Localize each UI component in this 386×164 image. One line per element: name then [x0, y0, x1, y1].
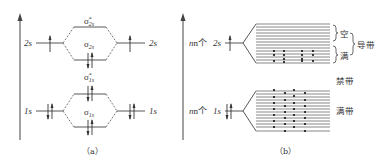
- brace-icon: [333, 46, 338, 63]
- label-sigma-2s-star: σ*2s: [84, 16, 95, 27]
- electron-pair-icon: [129, 103, 136, 120]
- caption-a: （a）: [82, 147, 103, 156]
- label-1s: 1s: [213, 106, 222, 116]
- panel-b: nn个 2s: [181, 13, 376, 156]
- label-full: 满: [340, 51, 349, 61]
- label-left-1s: 1s: [24, 106, 33, 116]
- label-left-2s: 2s: [24, 38, 33, 48]
- brace-icon: [350, 33, 355, 55]
- electron-pair-icon: [47, 103, 54, 120]
- label-forbidden-band: 禁带: [336, 76, 354, 86]
- label-n-2s: nn个: [189, 38, 207, 48]
- label-valence-band: 满带: [336, 106, 354, 116]
- label-right-1s: 1s: [149, 106, 158, 116]
- electron-pair-icon: [87, 52, 94, 69]
- label-2s: 2s: [213, 38, 222, 48]
- label-sigma-1s: σ1s: [84, 107, 95, 118]
- label-empty: 空: [340, 29, 349, 39]
- label-sigma-2s: σ2s: [84, 39, 95, 50]
- brace-icon: [333, 25, 338, 41]
- electrons-in-upper-band: [273, 50, 314, 63]
- electrons-in-valence-band: [273, 89, 306, 132]
- panel-a: 2s 2s σ*2s σ2s σ*1s 1s: [18, 13, 158, 156]
- electron-pair-icon: [87, 119, 94, 136]
- electron-up-arrow-icon: [129, 35, 132, 52]
- valence-band-levels: [256, 91, 330, 131]
- electron-up-arrow-icon: [49, 35, 52, 52]
- electron-pair-icon: [226, 103, 233, 120]
- axis-arrow-icon: [181, 13, 186, 21]
- molecular-orbital-band-diagram: 2s 2s σ*2s σ2s σ*1s 1s: [0, 0, 386, 164]
- conduction-band-levels: [256, 24, 330, 63]
- electron-pair-icon: [87, 85, 94, 102]
- caption-b: （b）: [275, 147, 296, 156]
- label-right-2s: 2s: [149, 38, 158, 48]
- label-n-1s: nn个: [189, 106, 207, 116]
- label-conduction-band: 导带: [357, 40, 375, 50]
- label-sigma-1s-star: σ*1s: [84, 72, 95, 83]
- axis-arrow-icon: [18, 13, 23, 21]
